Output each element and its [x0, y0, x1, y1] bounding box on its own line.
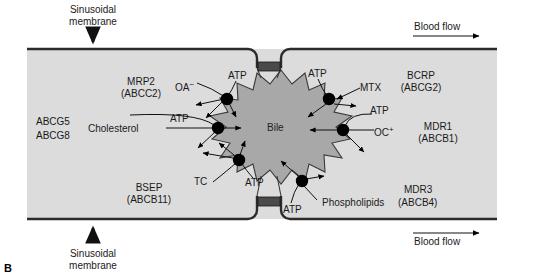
- sinusoidal-membrane-top-label: Sinusoidal membrane: [57, 4, 129, 27]
- transporter-label-abcg8: ABCG8: [36, 130, 70, 142]
- mrp2-substrate-charge: −: [189, 80, 194, 89]
- sinusoidal-bottom-line1: Sinusoidal: [57, 248, 129, 260]
- bcrp-substrate-label: MTX: [360, 82, 381, 94]
- mdr1-substrate-label: OC+: [374, 124, 394, 139]
- blood-flow-bottom-label: Blood flow: [414, 236, 460, 248]
- mdr1-substrate-charge: +: [389, 125, 394, 134]
- transporter-label-bsep: BSEP (ABCB11): [113, 182, 185, 205]
- bcrp-gene: (ABCG2): [390, 82, 452, 94]
- bcrp-transporter-dot: [323, 93, 335, 105]
- mdr1-gene: (ABCB1): [407, 133, 469, 145]
- mrp2-substrate-label: OA−: [175, 79, 194, 94]
- tight-junction-bottom: [258, 197, 280, 206]
- bcrp-name: BCRP: [390, 70, 452, 82]
- bile-lumen-label: Bile: [267, 122, 284, 134]
- mrp2-gene: (ABCC2): [110, 88, 172, 100]
- mdr1-transporter-dot: [337, 124, 349, 136]
- abcg58-transporter-dot: [212, 122, 224, 134]
- figure-panel: Sinusoidal membrane Sinusoidal membrane …: [0, 0, 543, 279]
- sinusoidal-top-line1: Sinusoidal: [57, 4, 129, 16]
- mdr3-gene: (ABCB4): [398, 197, 437, 209]
- abcg58-substrate-label: Cholesterol: [88, 123, 139, 135]
- bcrp-atp-label: ATP: [308, 68, 327, 80]
- bsep-transporter-dot: [233, 154, 245, 166]
- mrp2-name: MRP2: [110, 76, 172, 88]
- mdr1-name: MDR1: [407, 121, 469, 133]
- blood-flow-top-label: Blood flow: [414, 21, 460, 33]
- mdr3-substrate-label: Phospholipids: [322, 197, 384, 209]
- bsep-name: BSEP: [113, 182, 185, 194]
- mrp2-transporter-dot: [221, 93, 233, 105]
- mdr1-substrate-text: OC: [374, 127, 389, 138]
- tight-junction-top: [258, 62, 280, 71]
- sinusoidal-bottom-line2: membrane: [57, 260, 129, 272]
- mdr3-transporter-dot: [296, 175, 308, 187]
- transporter-label-bcrp: BCRP (ABCG2): [390, 70, 452, 93]
- transporter-label-abcg5: ABCG5: [36, 116, 70, 128]
- mrp2-substrate-text: OA: [175, 82, 189, 93]
- mdr1-atp-label: ATP: [370, 105, 389, 117]
- bsep-substrate-label: TC: [194, 176, 207, 188]
- mrp2-atp-label: ATP: [228, 70, 247, 82]
- sinusoidal-membrane-bottom-label: Sinusoidal membrane: [57, 248, 129, 271]
- bsep-atp-label: ATP: [245, 177, 264, 189]
- transporter-label-mdr1: MDR1 (ABCB1): [407, 121, 469, 144]
- sinusoidal-top-line2: membrane: [57, 16, 129, 28]
- panel-letter: B: [4, 262, 12, 274]
- transporter-label-mrp2: MRP2 (ABCC2): [110, 76, 172, 99]
- abcg58-atp-label: ATP: [170, 113, 189, 125]
- bsep-gene: (ABCB11): [113, 194, 185, 206]
- mdr3-atp-label: ATP: [283, 204, 302, 216]
- transporter-label-mdr3: MDR3: [404, 184, 432, 196]
